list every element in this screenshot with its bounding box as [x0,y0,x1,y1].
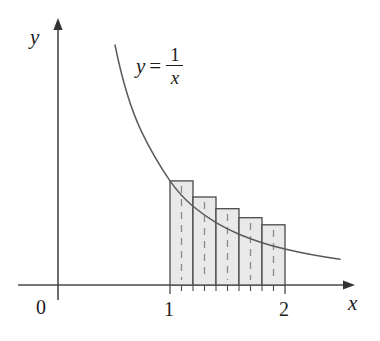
x-axis-arrowhead [343,280,355,289]
fraction-numerator: 1 [166,45,184,65]
figure-container: y x 0 1 2 y = 1 x [0,0,380,341]
equation-equals-sign: = [149,56,161,77]
x-axis-label: x [347,291,358,315]
y-axis-arrowhead [53,18,62,30]
fraction-denominator: x [167,66,183,87]
origin-label: 0 [36,296,46,318]
equation-lhs: y [136,56,145,77]
x-axis-minor-ticks [182,285,274,291]
x-tick-label-1: 1 [164,298,174,320]
equation-label: y = 1 x [136,45,184,87]
midpoint-rule-diagram: y x 0 1 2 [0,0,380,341]
x-tick-label-2: 2 [279,298,289,320]
y-axis-label: y [28,25,40,49]
equation-fraction: 1 x [166,45,184,87]
